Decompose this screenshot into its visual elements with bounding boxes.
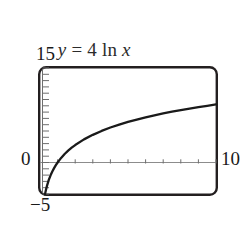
y-axis-max-label: 15 [36,44,55,64]
equation-ln-function: ln [97,39,122,60]
origin-label: 0 [21,149,31,169]
y-axis-ticks [43,68,50,194]
graph-figure: y = 4 ln x 15 −5 0 10 [0,0,247,228]
frame-border [39,67,217,195]
screen-bezel [39,67,217,195]
equation-equals-sign: = [66,39,87,60]
y-axis-min-label: −5 [30,195,50,215]
plot-frame [38,66,218,196]
equation-coefficient: 4 [87,39,97,60]
equation-variable-x: x [122,39,131,60]
plot-canvas [38,66,218,196]
x-axis-max-label: 10 [221,149,240,169]
